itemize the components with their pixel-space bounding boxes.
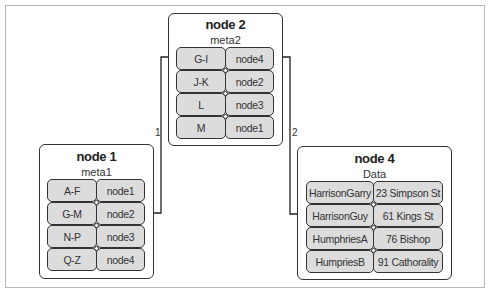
- node-2-value-cell: node1: [225, 116, 274, 139]
- node-4-subtitle: Data: [298, 168, 451, 180]
- node-1-value-cell: node1: [96, 179, 145, 202]
- node-2-value-cell: node3: [225, 93, 274, 116]
- junction-dot: [94, 223, 99, 228]
- node-1-subtitle: meta1: [40, 166, 153, 178]
- node-2-value-cell: node4: [225, 47, 274, 70]
- node-4-key-cell: HarrisonGuy: [306, 204, 374, 227]
- node-1-key-cell: A-F: [47, 179, 97, 202]
- node-4-value-cell: 91 Cathorality: [373, 250, 443, 273]
- node-1-value-cell: node2: [96, 202, 145, 225]
- node-4-value-cell: 76 Bishop: [373, 227, 443, 250]
- node-1-value-cell: node4: [96, 248, 145, 271]
- node-1-title: node 1: [40, 149, 153, 164]
- node-1-key-cell: G-M: [47, 202, 97, 225]
- junction-dot: [371, 202, 376, 207]
- junction-dot: [223, 68, 228, 73]
- junction-dot: [223, 114, 228, 119]
- node-2-key-cell: L: [176, 93, 226, 116]
- node-1-key-cell: Q-Z: [47, 248, 97, 271]
- node-2-key-cell: J-K: [176, 70, 226, 93]
- node-1-key-cell: N-P: [47, 225, 97, 248]
- node-4-title: node 4: [298, 151, 451, 166]
- junction-dot: [223, 91, 228, 96]
- node-4-key-cell: HarrisonGarry: [306, 181, 374, 204]
- junction-dot: [94, 246, 99, 251]
- edge-1-label: 1: [155, 127, 161, 138]
- node-4-value-cell: 23 Simpson St: [373, 181, 443, 204]
- junction-dot: [371, 225, 376, 230]
- junction-dot: [371, 248, 376, 253]
- node-2-value-cell: node2: [225, 70, 274, 93]
- node-2-key-cell: M: [176, 116, 226, 139]
- node-4-key-cell: HumpriesB: [306, 250, 374, 273]
- node-4-value-cell: 61 Kings St: [373, 204, 443, 227]
- node-2-key-cell: G-I: [176, 47, 226, 70]
- node-2-title: node 2: [169, 17, 282, 32]
- node-1-value-cell: node3: [96, 225, 145, 248]
- node-2-subtitle: meta2: [169, 34, 282, 46]
- node-4-key-cell: HumphriesA: [306, 227, 374, 250]
- edge-2-label: 2: [292, 127, 298, 138]
- junction-dot: [94, 200, 99, 205]
